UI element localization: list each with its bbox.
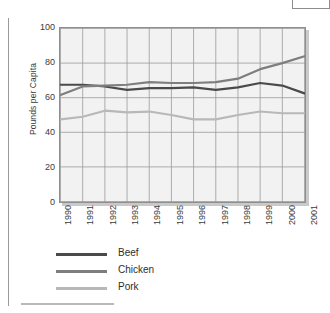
x-tick-label: 1998	[243, 205, 252, 225]
legend-swatch-beef	[56, 253, 107, 256]
plot-area	[59, 27, 306, 203]
series-line-beef	[60, 83, 304, 93]
x-tick-label: 1996	[198, 205, 207, 225]
y-tick-label: 20	[27, 163, 55, 172]
chart-legend: BeefChickenPork	[56, 246, 236, 297]
series-line-pork	[60, 111, 304, 120]
legend-item-beef[interactable]: Beef	[56, 246, 236, 263]
footer-rule	[21, 303, 114, 305]
series-line-chicken	[60, 56, 304, 95]
x-tick-label: 1994	[153, 205, 162, 225]
x-tick-label: 1995	[176, 205, 185, 225]
legend-label: Chicken	[118, 264, 154, 276]
legend-swatch-chicken	[56, 270, 107, 273]
legend-label: Pork	[118, 281, 139, 293]
y-axis-tick-labels: 020406080100	[22, 0, 55, 313]
x-tick-label: 1997	[221, 205, 230, 225]
x-tick-label: 2001	[310, 205, 319, 225]
legend-item-pork[interactable]: Pork	[56, 280, 236, 297]
y-tick-label: 0	[27, 198, 55, 207]
x-axis-tick-labels: 1990199119921993199419951996199719981999…	[59, 205, 306, 251]
legend-swatch-pork	[56, 287, 107, 290]
y-tick-label: 100	[27, 23, 55, 32]
x-tick-label: 2000	[288, 205, 297, 225]
x-tick-label: 1999	[265, 205, 274, 225]
y-axis-title: Pounds per Capita	[28, 44, 38, 154]
series-lines	[60, 28, 305, 202]
x-tick-label: 1992	[109, 205, 118, 225]
x-tick-label: 1991	[86, 205, 95, 225]
x-tick-label: 1990	[64, 205, 73, 225]
x-tick-label: 1993	[131, 205, 140, 225]
legend-label: Beef	[118, 247, 139, 259]
legend-item-chicken[interactable]: Chicken	[56, 263, 236, 280]
